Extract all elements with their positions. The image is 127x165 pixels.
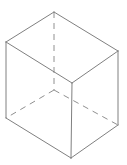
bottom-back-to-bottom-left-edge — [6, 90, 54, 118]
top-apex-to-top-left-edge — [6, 12, 54, 42]
cube-faces-group — [6, 12, 118, 158]
bottom-back-to-bottom-right-edge — [54, 90, 118, 125]
top-apex-to-top-right-edge — [54, 12, 118, 51]
bottom-left-to-bottom-front-edge — [6, 118, 71, 158]
bottom-right-to-bottom-front-edge — [71, 125, 118, 158]
hidden-edges-group — [6, 12, 118, 125]
visible-edges-group — [6, 12, 118, 158]
top-face — [6, 12, 118, 83]
front-vertical-edge-edge — [71, 83, 72, 158]
cube-figure-container — [0, 0, 127, 165]
top-right-to-top-front-edge — [72, 51, 118, 83]
left-face — [6, 42, 72, 158]
cube-wireframe-svg — [0, 0, 127, 165]
top-left-to-top-front-edge — [6, 42, 72, 83]
